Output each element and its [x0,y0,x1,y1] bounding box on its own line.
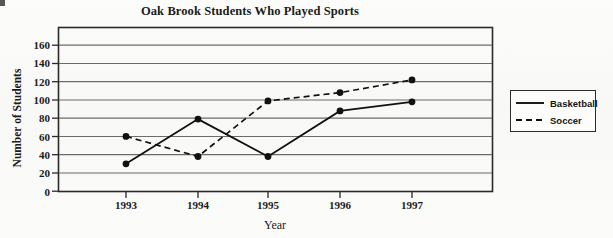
chart-legend: Basketball Soccer [510,90,596,132]
x-axis-ticks [126,192,412,198]
legend-line-dashed-icon [516,115,544,125]
legend-label-soccer: Soccer [550,115,582,126]
legend-label-basketball: Basketball [550,98,598,109]
legend-item-basketball: Basketball [516,96,598,110]
legend-line-solid-icon [516,98,544,108]
legend-item-soccer: Soccer [516,113,582,127]
series-markers-basketball [123,98,416,167]
chart-page: Oak Brook Students Who Played Sports Num… [0,0,613,238]
plot-frame [59,28,493,192]
gridlines [59,45,492,173]
